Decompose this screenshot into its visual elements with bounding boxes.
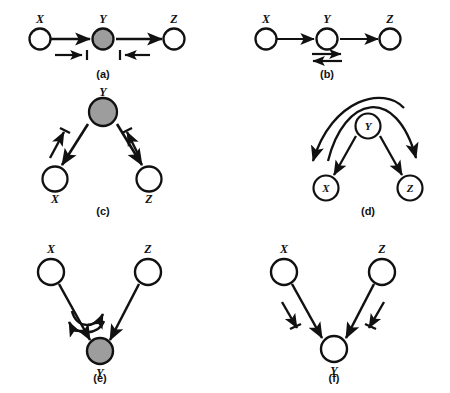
curved-arc-marker-lower (69, 321, 104, 332)
panel-caption-a: (a) (96, 68, 110, 80)
flow-marker-left (50, 128, 70, 158)
panel-caption-e: (e) (93, 372, 107, 384)
node-x (256, 29, 277, 50)
panel-f: X Z Y (f) (250, 232, 450, 382)
node-label-y: Y (99, 88, 108, 99)
node-label-z: Z (385, 12, 394, 26)
node-label-x: X (35, 12, 45, 26)
node-x (30, 29, 51, 50)
node-label-y: Y (99, 12, 108, 26)
edge-z-y (346, 284, 374, 338)
double-arrow-marker (312, 54, 342, 61)
node-x (43, 167, 68, 192)
node-label-x: X (46, 242, 56, 256)
flow-marker-left (55, 50, 87, 60)
node-label-z: Z (143, 242, 152, 256)
node-z (137, 167, 162, 192)
panel-b: X Y Z (b) (238, 10, 438, 82)
node-x (271, 259, 297, 285)
flow-marker-left (282, 302, 301, 329)
node-label-x: X (50, 192, 60, 206)
figure-root: X Y Z (a) X Y Z (0, 0, 450, 393)
node-label-z: Z (406, 182, 414, 194)
node-label-z: Z (169, 12, 178, 26)
node-y (93, 29, 114, 50)
node-z (135, 259, 161, 285)
flow-marker-right (122, 128, 140, 158)
panel-d: Y X Z (d) (280, 88, 450, 220)
edge-y-x (334, 136, 356, 175)
node-label-z: Z (377, 242, 386, 256)
panel-caption-c: (c) (96, 205, 110, 217)
node-label-x: X (321, 182, 330, 194)
node-label-x: X (261, 12, 271, 26)
panel-a: X Y Z (a) (14, 10, 214, 82)
edge-z-y (110, 284, 139, 340)
panel-e: X Z Y (e) (14, 232, 214, 382)
panel-e-caption-layer: (e) (14, 370, 214, 393)
node-y (317, 29, 338, 50)
panel-caption-d: (d) (361, 205, 375, 217)
node-label-y: Y (323, 12, 332, 26)
node-z (369, 259, 395, 285)
node-y (321, 336, 347, 362)
flow-marker-right (120, 50, 150, 60)
panel-caption-f: (f) (329, 372, 340, 384)
edge-x-y (292, 284, 322, 338)
node-x (38, 259, 64, 285)
panel-c: Y X Z (c) (14, 88, 214, 220)
node-z (380, 29, 401, 50)
node-y (87, 338, 113, 364)
flow-marker-right (365, 302, 384, 329)
panel-caption-b: (b) (320, 68, 334, 80)
node-label-x: X (279, 242, 289, 256)
edge-y-z (380, 136, 402, 175)
node-z (164, 29, 185, 50)
panel-f-caption-layer: (f) (250, 370, 450, 393)
node-label-z: Z (144, 192, 153, 206)
node-y (89, 98, 117, 126)
